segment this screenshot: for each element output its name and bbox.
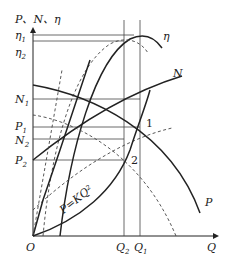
p-curve-label: P	[204, 196, 213, 209]
tick-p1: P1	[14, 120, 27, 135]
tick-q2: Q2	[116, 241, 130, 256]
tick-n1: N1	[14, 93, 29, 108]
point-2-label: 2	[131, 154, 138, 167]
pump-characteristics-diagram: P、N、η η1 η2 N1 P1 N2 P2 O Q2 Q1 Q η N P …	[0, 0, 229, 267]
tick-p2: P2	[14, 154, 27, 169]
origin-label: O	[26, 241, 35, 254]
system-curve-label: P=KQ²	[56, 183, 95, 217]
tick-eta2: η2	[15, 46, 27, 61]
eta-curve-label: η	[163, 30, 170, 43]
tick-n2: N2	[14, 134, 30, 149]
y-axis-label: P、N、η	[14, 13, 61, 26]
tick-q1: Q1	[134, 241, 148, 256]
point-1-label: 1	[146, 117, 153, 130]
steep-line-dashed	[33, 70, 62, 236]
n-curve-solid	[33, 76, 182, 160]
x-axis-label: Q	[207, 241, 216, 254]
tick-eta1: η1	[15, 29, 26, 44]
n-curve-label: N	[172, 67, 183, 80]
